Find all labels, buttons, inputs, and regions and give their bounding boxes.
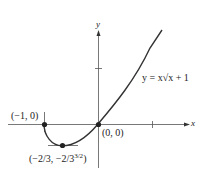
graph-canvas bbox=[0, 0, 202, 173]
equation-label: y = x√x + 1 bbox=[142, 73, 189, 83]
min-label-exp: 3/2 bbox=[74, 152, 83, 160]
y-axis-arrow-icon bbox=[97, 30, 101, 36]
min-label-close: ) bbox=[83, 153, 86, 164]
origin-point-label: (0, 0) bbox=[102, 128, 124, 138]
point-minimum bbox=[60, 143, 65, 148]
point-origin bbox=[96, 122, 101, 127]
minimum-point-label: (−2/3, −2/33/2) bbox=[29, 153, 86, 164]
x-axis-label: x bbox=[191, 119, 195, 128]
y-axis-label: y bbox=[96, 20, 100, 29]
left-point-label: (−1, 0) bbox=[11, 111, 38, 121]
x-axis-arrow-icon bbox=[184, 123, 190, 127]
min-label-main: (−2/3, −2/3 bbox=[29, 153, 74, 164]
point-neg1-0 bbox=[42, 122, 47, 127]
